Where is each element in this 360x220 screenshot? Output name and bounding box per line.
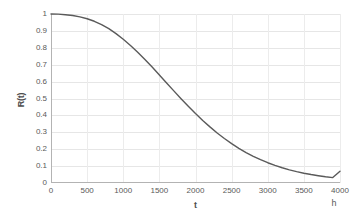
x-tick-label: 4000 <box>320 186 360 196</box>
y-tick-label: 0.2 <box>28 145 47 153</box>
x-axis-tick-labels: 05001000150020002500300035004000 <box>51 186 340 198</box>
x-tick-label: 2500 <box>212 186 252 196</box>
y-tick-label: 0.3 <box>28 128 47 136</box>
x-tick-label: 1000 <box>103 186 143 196</box>
x-axis-unit-label: h <box>322 198 346 208</box>
x-tick-label: 3500 <box>284 186 324 196</box>
y-tick-label: 0.8 <box>28 44 47 52</box>
x-axis-title: t <box>51 200 340 210</box>
series-line-rt <box>51 14 340 183</box>
y-tick-label: 0.6 <box>28 78 47 86</box>
x-tick-label: 2000 <box>176 186 216 196</box>
y-axis-tick-labels: 10.90.80.70.60.50.40.30.20.10 <box>28 14 47 183</box>
y-tick-label: 0.5 <box>28 95 47 103</box>
x-tick-label: 3000 <box>248 186 288 196</box>
series-path <box>51 14 340 178</box>
y-axis-title-text: R(t) <box>16 93 26 108</box>
y-tick-label: 0.1 <box>28 162 47 170</box>
x-tick-label: 500 <box>67 186 107 196</box>
y-tick-label: 0.9 <box>28 27 47 35</box>
y-axis-title: R(t) <box>14 78 28 122</box>
gridline-vertical <box>340 14 341 183</box>
y-tick-label: 0.7 <box>28 61 47 69</box>
y-tick-label: 0.4 <box>28 111 47 119</box>
x-tick-label: 0 <box>31 186 71 196</box>
x-tick-label: 1500 <box>139 186 179 196</box>
reliability-chart: R(t) 10.90.80.70.60.50.40.30.20.10 05001… <box>0 0 360 220</box>
y-tick-label: 1 <box>28 10 47 18</box>
plot-area <box>51 14 340 183</box>
